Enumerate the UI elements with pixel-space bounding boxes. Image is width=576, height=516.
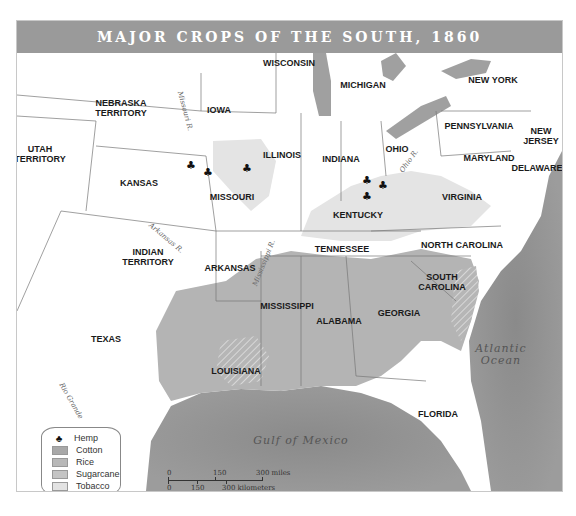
legend-item-tobacco: Tobacco (52, 480, 120, 492)
legend-item-rice: Rice (52, 456, 120, 468)
hemp-leaf-icon: ♣ (242, 162, 252, 175)
state-label: NEW YORK (468, 75, 517, 85)
state-label: LOUISIANA (211, 366, 261, 376)
legend-label: Rice (76, 457, 94, 467)
legend-label: Cotton (76, 445, 103, 455)
state-label: MISSISSIPPI (260, 301, 314, 311)
legend-item-sugarcane: Sugarcane (52, 468, 120, 480)
map-frame: MAJOR CROPS OF THE SOUTH, 1860 (16, 20, 563, 492)
state-label: GEORGIA (378, 308, 421, 318)
legend-item-cotton: Cotton (52, 444, 120, 456)
sugarcane-swatch (52, 470, 68, 479)
scale-km-300: 300 kilometers (222, 484, 275, 492)
state-label: TEXAS (91, 334, 121, 344)
hemp-leaf-icon: ♣ (203, 166, 213, 179)
state-label: ALABAMA (316, 316, 362, 326)
state-label: INDIANA (322, 154, 360, 164)
state-label: DELAWARE (511, 163, 562, 173)
state-label: FLORIDA (418, 409, 458, 419)
legend-item-hemp: ♣ Hemp (52, 432, 120, 444)
state-label: INDIAN TERRITORY (122, 247, 174, 267)
scale-miles-0: 0 (167, 469, 171, 477)
scale-km-150: 150 (191, 484, 204, 492)
hemp-leaf-icon: ♣ (52, 433, 66, 444)
hemp-leaf-icon: ♣ (378, 179, 388, 192)
state-label: OHIO (385, 144, 408, 154)
state-label: KENTUCKY (333, 210, 383, 220)
state-label: TENNESSEE (315, 244, 370, 254)
map-legend: ♣ Hemp Cotton Rice Sugarcane Tobacco (41, 427, 121, 492)
state-label: NEBRASKA TERRITORY (95, 98, 147, 118)
hemp-leaf-icon: ♣ (362, 190, 372, 203)
scale-bar: 0 150 300 miles 0 150 300 kilometers (167, 469, 327, 492)
state-label: SOUTH CAROLINA (418, 272, 466, 292)
map-title: MAJOR CROPS OF THE SOUTH, 1860 (17, 21, 562, 53)
state-label: WISCONSIN (263, 58, 315, 68)
state-label: ILLINOIS (263, 150, 301, 160)
legend-label: Tobacco (76, 481, 110, 491)
map-canvas (17, 53, 562, 491)
scale-miles-150: 150 (213, 469, 226, 477)
state-label: PENNSYLVANIA (444, 121, 513, 131)
state-label: VIRGINIA (442, 192, 482, 202)
hemp-leaf-icon: ♣ (362, 174, 372, 187)
state-label: MICHIGAN (340, 80, 386, 90)
state-label: ARKANSAS (204, 263, 255, 273)
water-body-label: Atlantic Ocean (475, 343, 526, 367)
state-label: NORTH CAROLINA (421, 240, 503, 250)
state-label: UTAH TERRITORY (16, 144, 66, 164)
state-label: MISSOURI (210, 192, 255, 202)
scale-miles-300: 300 miles (256, 469, 290, 477)
legend-label: Hemp (74, 433, 98, 443)
state-label: NEW JERSEY (523, 126, 559, 146)
scale-km-0: 0 (167, 484, 171, 492)
state-label: IOWA (207, 105, 231, 115)
legend-label: Sugarcane (76, 469, 120, 479)
tobacco-swatch (52, 482, 68, 491)
rice-swatch (52, 458, 68, 467)
water-body-label: Gulf of Mexico (253, 435, 348, 447)
hemp-leaf-icon: ♣ (186, 159, 196, 172)
cotton-swatch (52, 446, 68, 455)
state-label: KANSAS (120, 178, 158, 188)
state-label: MARYLAND (463, 153, 514, 163)
